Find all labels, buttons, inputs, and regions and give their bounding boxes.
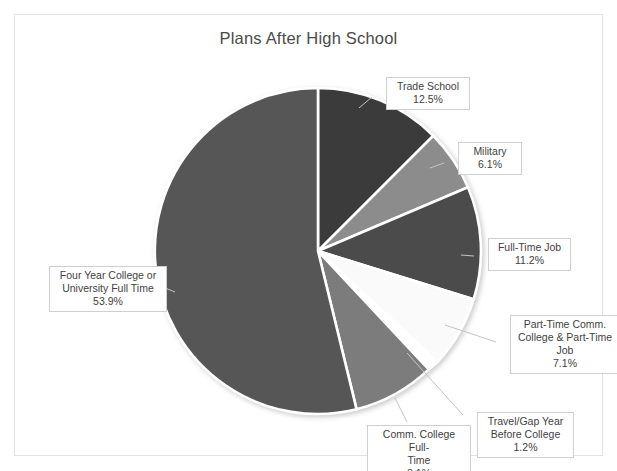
chart-container: Plans After High School (14, 14, 603, 456)
pie-chart-graphic (15, 15, 604, 457)
leader-line-comm-college (395, 398, 407, 422)
callout-part-time-comm-college[interactable]: Part-Time Comm. College & Part-Time Job … (510, 315, 617, 374)
callout-military[interactable]: Military 6.1% (458, 142, 522, 175)
screenshot-root: Plans After High School (0, 0, 617, 471)
callout-full-time-job[interactable]: Full-Time Job 11.2% (488, 238, 571, 271)
callout-trade-school[interactable]: Trade School 12.5% (386, 77, 470, 110)
callout-comm-college-full-time[interactable]: Comm. College Full- Time 8.1% (367, 425, 471, 471)
pie-slices-group (155, 88, 481, 414)
callout-travel-gap-year[interactable]: Travel/Gap Year Before College 1.2% (477, 412, 574, 458)
callout-four-year-college[interactable]: Four Year College or University Full Tim… (49, 266, 167, 312)
